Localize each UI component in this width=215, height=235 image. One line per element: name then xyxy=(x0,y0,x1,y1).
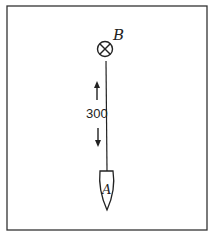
mark-b-icon xyxy=(98,42,113,57)
distance-label: 300 xyxy=(86,106,108,121)
boat-a-label: A xyxy=(101,182,111,197)
mark-b-label: B xyxy=(112,26,124,44)
diagram-canvas: B 300 A xyxy=(0,0,215,235)
arrow-up-icon xyxy=(94,81,100,100)
arrow-down-icon xyxy=(95,128,101,147)
